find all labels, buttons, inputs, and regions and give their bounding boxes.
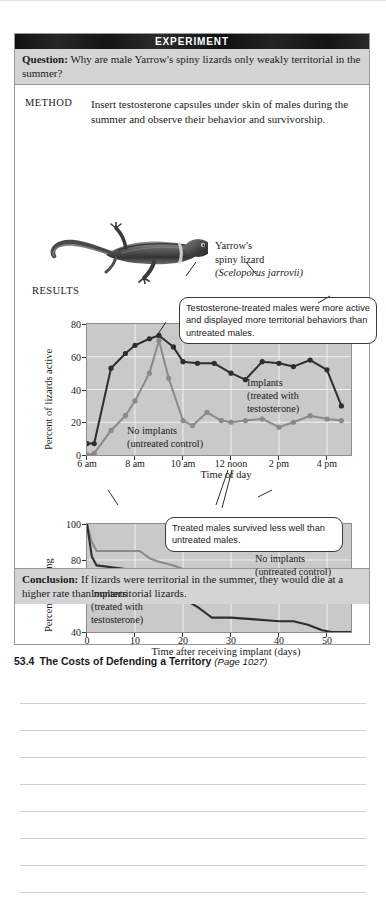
organism-scientific-name: (Sceloporus jarrovii) [215, 267, 303, 278]
figure-caption: 53.4The Costs of Defending a Territory (… [14, 655, 267, 667]
chart-1-xtick: 6 am [77, 458, 97, 469]
chart-1-xtickmark [182, 456, 183, 460]
chart-2-xtickmark [134, 633, 135, 637]
results-label: RESULTS [32, 285, 79, 296]
note-line [20, 730, 366, 731]
experiment-header-title: EXPERIMENT [155, 36, 229, 47]
note-line [20, 892, 366, 893]
chart-2-xtickmark [278, 633, 279, 637]
note-line [20, 703, 366, 704]
conclusion-label: Conclusion: [22, 573, 78, 585]
experiment-body: METHOD Insert testosterone capsules unde… [15, 85, 369, 604]
implant-label2-line1: Implants [91, 588, 143, 601]
note-line [20, 838, 366, 839]
callout-survivorship: Treated males survived less well than un… [165, 517, 343, 551]
note-line [20, 784, 366, 785]
activity-control-series-label: No implants (untreated control) [127, 425, 203, 451]
chart-1-xtickmark [134, 456, 135, 460]
chart-1-xtick: 12 noon [215, 458, 248, 469]
experiment-header-band: EXPERIMENT [15, 34, 369, 49]
callout-survivorship-text: Treated males survived less well than un… [172, 523, 325, 545]
chart-1-ytickmark [82, 422, 86, 423]
chart-2-xtick: 10 [130, 635, 140, 646]
question-label: Question: [22, 53, 68, 65]
implant-label2-line2: (treated with [91, 601, 143, 614]
figure-page-ref: (Page 1027) [214, 656, 267, 667]
chart-2-ytickmark [82, 524, 86, 525]
control-label-line2: (untreated control) [127, 438, 203, 451]
chart-1-xtickmark [86, 456, 87, 460]
survivorship-control-series-label: No implants (untreated control) [255, 553, 331, 579]
chart-2-xtick: 40 [274, 635, 284, 646]
chart-1-xtick: 2 pm [269, 458, 289, 469]
chart-1-ytickmark [82, 390, 86, 391]
implant-label2-line3: testosterone) [91, 614, 143, 627]
chart-1-ytick: 80 [55, 319, 81, 330]
chart-1-xtickmark [230, 456, 231, 460]
chart-1-xtickmark [278, 456, 279, 460]
page-top-rule [0, 0, 386, 1]
activity-chart-xlabel: Time of day [61, 469, 386, 480]
callout-activity-text: Testosterone-treated males were more act… [186, 303, 370, 337]
chart-1-xtick: 4 pm [317, 458, 337, 469]
chart-1-ytickmark [82, 357, 86, 358]
control-label2-line2: (untreated control) [255, 566, 331, 579]
note-line [20, 865, 366, 866]
chart-1-ytick: 20 [55, 417, 81, 428]
note-line [20, 757, 366, 758]
chart-1-ytickmark [82, 324, 86, 325]
method-row: METHOD Insert testosterone capsules unde… [25, 97, 361, 126]
implant-label-line3: testosterone) [247, 403, 299, 416]
chart-1-xtickmark [326, 456, 327, 460]
control-label-line1: No implants [127, 425, 203, 438]
experiment-box: EXPERIMENT Question: Why are male Yarrow… [14, 33, 370, 645]
organism-caption: Yarrow's spiny lizard (Sceloporus jarrov… [215, 239, 303, 280]
chart-2-xtick: 30 [226, 635, 236, 646]
figure-number: 53.4 [14, 655, 34, 667]
lizard-photo [48, 222, 208, 284]
chart-1-ytick: 60 [55, 351, 81, 362]
callout-activity: Testosterone-treated males were more act… [179, 297, 377, 344]
chart-2-ytick: 80 [55, 555, 81, 566]
question-panel: Question: Why are male Yarrow's spiny li… [15, 49, 369, 85]
chart-2-xtick: 50 [322, 635, 332, 646]
method-label: METHOD [25, 97, 91, 126]
chart-2-xtick: 20 [178, 635, 188, 646]
organism-common-name-line2: spiny lizard [215, 253, 303, 267]
activity-implant-series-label: Implants (treated with testosterone) [247, 377, 299, 415]
implant-label-line1: Implants [247, 377, 299, 390]
activity-chart-ylabel: Percent of lizards active [43, 349, 54, 450]
chart-2-ytick: 40 [55, 627, 81, 638]
chart-2-xtickmark [326, 633, 327, 637]
control-label2-line1: No implants [255, 553, 331, 566]
worksheet-page: EXPERIMENT Question: Why are male Yarrow… [0, 0, 386, 915]
organism-common-name-line1: Yarrow's [215, 239, 303, 253]
chart-1-xtick: 10 am [171, 458, 196, 469]
chart-2-ytick: 100 [55, 519, 81, 530]
question-text: Why are male Yarrow's spiny lizards only… [22, 53, 360, 79]
implant-label-line2: (treated with [247, 390, 299, 403]
chart-2-ytickmark [82, 560, 86, 561]
chart-2-xtickmark [230, 633, 231, 637]
chart-2-xtickmark [86, 633, 87, 637]
figure-title: The Costs of Defending a Territory [39, 655, 211, 667]
note-line [20, 811, 366, 812]
survivorship-implant-series-label: Implants (treated with testosterone) [91, 588, 143, 626]
chart-1-ytick: 40 [55, 384, 81, 395]
chart-2-xtickmark [182, 633, 183, 637]
method-text: Insert testosterone capsules under skin … [91, 97, 361, 126]
chart-1-xtick: 8 am [125, 458, 145, 469]
